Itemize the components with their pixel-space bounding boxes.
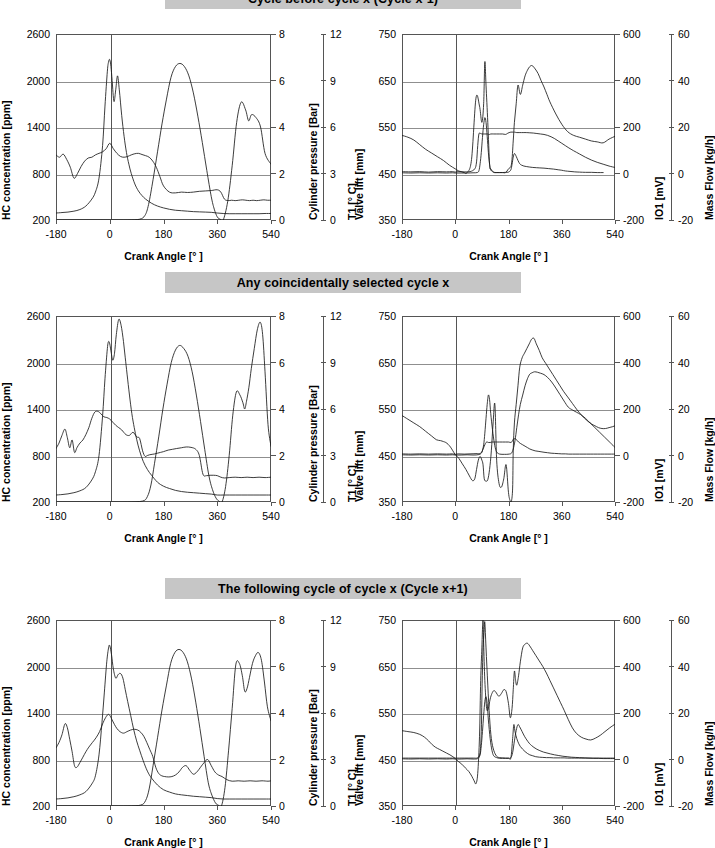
panel-row1-right-y3-tick <box>669 220 674 221</box>
panel-row2-left-y2-tick-label: 0 <box>279 496 285 508</box>
panel-row3-right-y3-tick <box>669 713 674 714</box>
panel-row3-right-curves <box>402 620 615 806</box>
panel-row1-left-xtick-label: 540 <box>262 228 280 240</box>
panel-row1-left-xtick-label: 360 <box>208 228 226 240</box>
panel-row2-left-y3-tick <box>321 455 326 456</box>
panel-row3-right-y3-tick-label: 40 <box>678 661 690 673</box>
panel-row3-right-y2-tick-label: 600 <box>623 614 641 626</box>
panel-row1-right-xtick-label: 540 <box>606 228 624 240</box>
panel-row1-left-y2-tick-label: 2 <box>279 168 285 180</box>
panel-row3-left-y2-tick <box>271 713 276 714</box>
section-title-text-3: The following cycle of cycle x (Cycle x+… <box>218 582 468 596</box>
panel-row3-left-y3-tick-label: 3 <box>330 754 336 766</box>
panel-row2-right-xtick-label: 360 <box>553 510 571 522</box>
panel-row3-left-y3-tick <box>321 759 326 760</box>
panel-row2-left-y3-tick-label: 12 <box>330 310 342 322</box>
panel-row3-left-xtick-label: -180 <box>45 814 66 826</box>
panel-row1-left-y3-tick-label: 6 <box>330 121 336 133</box>
section-title-band-2: Any coincidentally selected cycle x <box>165 272 521 293</box>
panel-row3-right-xtick <box>402 806 403 810</box>
panel-row2-left-y2-tick <box>271 502 276 503</box>
panel-row3-right-y3-tick-label: -20 <box>678 800 693 812</box>
panel-row3-right-y3-tick <box>669 759 674 760</box>
panel-row2-right-y3-axis-title: Mass Flow [kg/h] <box>703 417 715 502</box>
panel-row2-right-y2-tick <box>615 316 620 317</box>
panel-row1-right-y3-axis-title: Mass Flow [kg/h] <box>703 135 715 220</box>
panel-row2-right-y3-tick <box>669 409 674 410</box>
panel-row3-left-x-axis-title: Crank Angle [° ] <box>124 836 202 848</box>
panel-row3-right-xtick-label: 360 <box>553 814 571 826</box>
panel-row1-left-y3-tick-label: 3 <box>330 168 336 180</box>
panel-row1-left-y3-tick <box>321 173 326 174</box>
panel-row1-right-y3-tick <box>669 80 674 81</box>
panel-row3-left-xtick <box>56 806 57 810</box>
panel-row1-left-series-1 <box>56 143 271 200</box>
panel-row1-left-y2-tick <box>271 173 276 174</box>
panel-row2-right-xtick-label: -180 <box>391 510 412 522</box>
panel-row1-right-xtick-label: 0 <box>452 228 458 240</box>
panel-row3-right-xtick <box>509 806 510 810</box>
section-title-band-1: Cycle before cycle x (Cycle x-1) <box>165 0 521 9</box>
panel-row1-right-y2-tick <box>615 220 620 221</box>
panel-row3-left-y3-tick-label: 0 <box>330 800 336 812</box>
panel-row2-right-y3-tick <box>669 455 674 456</box>
panel-row2-right-y3-tick <box>669 502 674 503</box>
panel-row2-left-y3-tick <box>321 502 326 503</box>
panel-row3-right-xtick <box>455 806 456 810</box>
panel-row2-left-y3-tick-label: 0 <box>330 496 336 508</box>
panel-row2-left-xtick <box>110 502 111 506</box>
panel-row1-right-ytick-label: 750 <box>358 28 396 40</box>
section-title-text-2: Any coincidentally selected cycle x <box>237 276 450 290</box>
panel-row1-left-curves <box>56 34 271 220</box>
section-title-text-1: Cycle before cycle x (Cycle x-1) <box>248 0 438 6</box>
panel-row1-right-y3-tick <box>669 34 674 35</box>
panel-row3-left-curves <box>56 620 271 806</box>
panel-row2-left-y-axis-title: HC concentration [ppm] <box>0 382 12 502</box>
panel-row3-right-series-1 <box>402 620 615 784</box>
panel-row3-left-y2-tick <box>271 806 276 807</box>
panel-row1-left-xtick-label: 180 <box>155 228 173 240</box>
panel-row1-left-y2-tick <box>271 220 276 221</box>
panel-row1-right-y-axis-title: T1 [° C] <box>346 183 358 220</box>
panel-row1-left-ytick-label: 2000 <box>12 75 50 87</box>
panel-row1-right-y3-tick-label: 40 <box>678 75 690 87</box>
panel-row1-left-y2-tick <box>271 127 276 128</box>
panel-row1-right-y2-tick <box>615 127 620 128</box>
panel-row1-right-y2-tick <box>615 173 620 174</box>
panel-row1-right-xtick <box>402 220 403 224</box>
panel-row1-left-ytick-label: 800 <box>12 168 50 180</box>
panel-row3-right-xtick-label: 180 <box>500 814 518 826</box>
panel-row3-left-xtick-label: 540 <box>262 814 280 826</box>
panel-row2-left-ytick-label: 200 <box>12 496 50 508</box>
panel-row3-left-y3-tick <box>321 620 326 621</box>
panel-row1-right-y3-tick-label: 20 <box>678 121 690 133</box>
panel-row1-right-xtick-label: 180 <box>500 228 518 240</box>
panel-row3-left-xtick <box>110 806 111 810</box>
panel-row2-left-y3-tick <box>321 362 326 363</box>
panel-row3-right-xtick-label: 0 <box>452 814 458 826</box>
panel-row3-right-xtick-label: -180 <box>391 814 412 826</box>
panel-row2-right-y2-tick <box>615 409 620 410</box>
panel-row2-right-y3-tick-label: -20 <box>678 496 693 508</box>
panel-row1-left-y2-tick-label: 0 <box>279 214 285 226</box>
panel-row3-left-y3-tick-label: 9 <box>330 661 336 673</box>
panel-row3-right-y3-tick-label: 20 <box>678 707 690 719</box>
panel-row2-left-ytick-label: 2600 <box>12 310 50 322</box>
panel-row2-left-y2-tick <box>271 409 276 410</box>
panel-row2-left-ytick-label: 800 <box>12 450 50 462</box>
panel-row1-right-y2-tick <box>615 34 620 35</box>
panel-row2-right-xtick <box>402 502 403 506</box>
panel-row3-left-ytick-label: 800 <box>12 754 50 766</box>
panel-row1-left-y2-tick <box>271 34 276 35</box>
panel-row3-right-y2-tick-label: 0 <box>623 754 629 766</box>
panel-row2-right-ytick-label: 750 <box>358 310 396 322</box>
panel-row1-left-xtick <box>56 220 57 224</box>
panel-row3-right-ytick-label: 650 <box>358 661 396 673</box>
panel-row1-right-x-axis-title: Crank Angle [° ] <box>469 250 547 262</box>
panel-row2-right-y2-tick-label: 600 <box>623 310 641 322</box>
panel-row1-right-y2-axis-title: IO1 [mV] <box>653 177 665 220</box>
panel-row2-right-series-3 <box>402 372 615 455</box>
panel-row2-left-curves <box>56 316 271 502</box>
panel-row1-right-xtick-label: 360 <box>553 228 571 240</box>
panel-row3-right-y3-tick <box>669 666 674 667</box>
